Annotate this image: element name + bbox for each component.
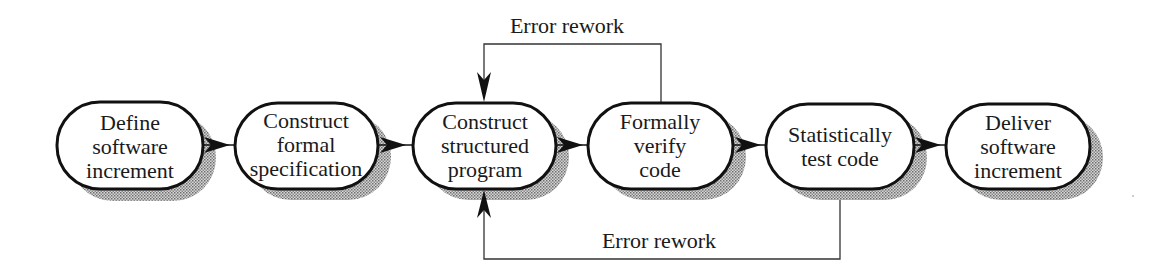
connector-n5-n6 — [914, 137, 946, 153]
node-label-line: Deliver — [985, 110, 1052, 135]
node-deliver-software-increment: Deliver software increment — [946, 104, 1090, 189]
scan-artifact — [1132, 195, 1134, 197]
connector-n3-n4 — [556, 137, 588, 153]
node-label-line: code — [639, 157, 681, 182]
node-label-line: program — [448, 157, 523, 182]
connector-n1-n2 — [203, 137, 235, 153]
loop-bottom-label: Error rework — [602, 228, 716, 253]
connector-n2-n3 — [378, 137, 413, 153]
node-statistically-test-code: Statistically test code — [766, 104, 914, 189]
node-label-line: specification — [250, 156, 362, 181]
node-construct-formal-specification: Construct formal specification — [235, 103, 378, 189]
node-label-line: increment — [974, 158, 1062, 183]
node-label-line: Formally — [620, 109, 701, 134]
node-label-line: software — [92, 134, 168, 159]
feedback-loop-bottom: Error rework — [484, 200, 840, 259]
node-label-line: Construct — [263, 108, 349, 133]
node-label-line: software — [980, 134, 1056, 159]
cleanroom-process-diagram: Error rework Error rework — [0, 0, 1151, 270]
node-label-line: increment — [86, 158, 174, 183]
feedback-loop-top: Error rework — [477, 13, 661, 103]
node-label-line: formal — [277, 132, 336, 157]
loop-top-line — [484, 44, 661, 103]
node-formally-verify-code: Formally verify code — [588, 103, 733, 189]
node-define-software-increment: Define software increment — [57, 102, 203, 189]
node-label-line: Define — [100, 110, 160, 135]
node-label-line: test code — [801, 146, 879, 171]
loop-top-label: Error rework — [510, 13, 624, 38]
node-label-line: Statistically — [788, 122, 892, 147]
node-label-line: verify — [634, 133, 687, 158]
node-construct-structured-program: Construct structured program — [413, 103, 556, 189]
connector-n4-n5 — [733, 137, 766, 153]
node-label-line: Construct — [442, 109, 528, 134]
node-label-line: structured — [441, 133, 529, 158]
